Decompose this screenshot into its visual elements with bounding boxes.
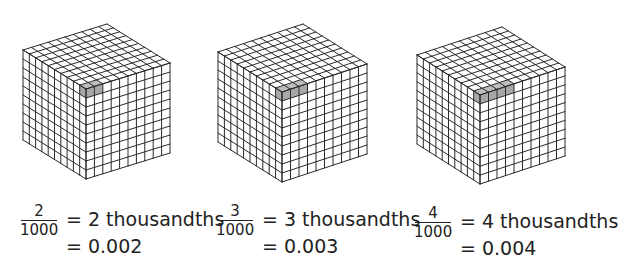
fraction-denominator: 1000 <box>20 222 58 238</box>
equation-decimal: = 0.002 <box>66 237 142 256</box>
fraction-numerator: 4 <box>428 205 438 221</box>
panel-2: 3 1000 = 3 thousandths = 0.003 <box>200 0 400 272</box>
fraction: 3 1000 <box>216 203 254 238</box>
fraction-denominator: 1000 <box>414 224 452 240</box>
equation-words: = 4 thousandths <box>460 212 618 231</box>
equation-decimal: = 0.003 <box>262 237 338 256</box>
fraction-numerator: 2 <box>34 203 44 219</box>
fraction: 2 1000 <box>20 203 58 238</box>
equation-words: = 3 thousandths <box>262 210 420 229</box>
panel-3: 4 1000 = 4 thousandths = 0.004 <box>400 0 600 272</box>
fraction-numerator: 3 <box>230 203 240 219</box>
equation-decimal: = 0.004 <box>460 239 536 258</box>
fraction: 4 1000 <box>414 205 452 240</box>
fraction-denominator: 1000 <box>216 222 254 238</box>
panel-1: 2 1000 = 2 thousandths = 0.002 <box>0 0 200 272</box>
